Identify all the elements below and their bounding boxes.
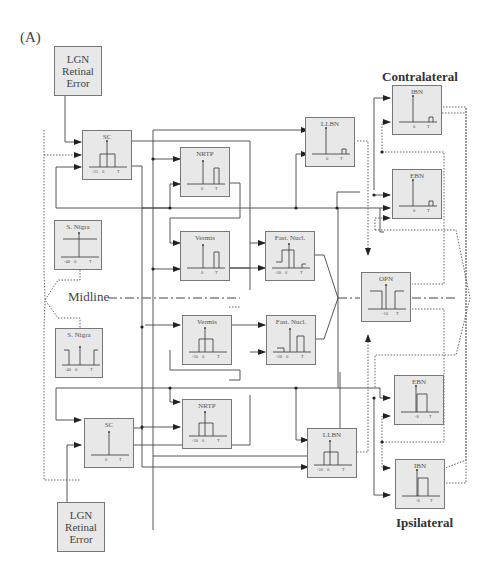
node-snigra-top: S. Nigra-400T (54, 220, 102, 270)
tick-label: T (215, 186, 218, 191)
tick-label: T (396, 311, 399, 316)
tick-label: T (427, 208, 430, 213)
node-title: LLBN (306, 120, 354, 128)
panel-label: (A) (20, 29, 41, 46)
node-snigra-bot: S. Nigra-400T (55, 328, 103, 378)
tick-label: 0 (413, 208, 415, 213)
node-vermis-bot: Vermis-200T (182, 315, 232, 365)
node-title: IBN (393, 88, 441, 96)
tick-label: -10 (382, 311, 388, 316)
contralateral-label: Contralateral (382, 69, 458, 85)
node-ibn-bot: IBN-8T (395, 459, 445, 509)
node-title: LLBN (308, 431, 356, 439)
node-ibn-top: IBN0T (392, 85, 442, 135)
tick-label: T (217, 438, 220, 443)
midline-label: Midline (68, 289, 109, 305)
tick-label: 0 (285, 270, 287, 275)
tick-label: T (429, 414, 432, 419)
tick-label: -40 (65, 367, 71, 372)
tick-label: -20 (276, 354, 282, 359)
node-lgn-top: LGNRetinalError (54, 46, 102, 96)
tick-label: -20 (192, 354, 198, 359)
node-sc-bot: SC0T (84, 418, 134, 468)
tick-label: T (300, 270, 303, 275)
tick-label: T (90, 367, 93, 372)
node-sc-top: SC-250T (82, 130, 132, 180)
tick-label: 0 (202, 354, 204, 359)
node-title: NRTP (183, 402, 231, 410)
node-lgn-bot: LGNRetinalError (57, 502, 105, 552)
tick-label: -8 (415, 414, 419, 419)
node-title: S. Nigra (55, 223, 101, 231)
node-fastn-top: Fast. Nucl.-200T (265, 231, 315, 281)
node-fastn-bot: Fast. Nucl.-200T (266, 315, 316, 365)
tick-label: T (217, 354, 220, 359)
tick-label: -40 (64, 259, 70, 264)
node-title: SC (83, 133, 131, 141)
node-title: NRTP (181, 150, 229, 158)
tick-label: 0 (286, 354, 288, 359)
ipsilateral-label: Ipsilateral (396, 515, 453, 531)
node-title: SC (85, 421, 133, 429)
tick-label: 0 (105, 457, 107, 462)
node-title: EBN (395, 378, 443, 386)
diagram-stage: (A) Contralateral Ipsilateral Midline LG… (0, 0, 491, 571)
node-nrtp-bot: NRTP-200T (182, 399, 232, 449)
node-title: Fast. Nucl. (266, 234, 314, 242)
node-ebn-bot: EBN-8T (394, 375, 444, 425)
node-title: Vermis (183, 318, 231, 326)
node-vermis-top: Vermis0T (180, 231, 230, 281)
tick-label: 0 (326, 156, 328, 161)
node-llbn-bot: LLBN-200T (307, 428, 357, 478)
node-llbn-top: LLBN0T (305, 117, 355, 167)
tick-label: 0 (201, 186, 203, 191)
tick-label: 0 (327, 467, 329, 472)
node-title: S. Nigra (56, 331, 102, 339)
tick-label: 0 (75, 367, 77, 372)
node-title: Fast. Nucl. (267, 318, 315, 326)
tick-label: 0 (413, 124, 415, 129)
node-title: OPN (362, 275, 410, 283)
tick-label: T (342, 467, 345, 472)
tick-label: T (215, 270, 218, 275)
node-opn: OPN-10T (361, 272, 411, 322)
tick-label: 0 (102, 169, 104, 174)
tick-label: -8 (416, 498, 420, 503)
tick-label: T (301, 354, 304, 359)
node-ebn-top: EBN0T (392, 169, 442, 219)
tick-label: T (117, 169, 120, 174)
tick-label: T (89, 259, 92, 264)
tick-label: T (340, 156, 343, 161)
tick-label: 0 (74, 259, 76, 264)
tick-label: 0 (202, 438, 204, 443)
node-title: LGNRetinalError (58, 509, 104, 545)
tick-label: -20 (192, 438, 198, 443)
tick-label: -20 (317, 467, 323, 472)
node-title: Vermis (181, 234, 229, 242)
tick-label: T (430, 498, 433, 503)
tick-label: 0 (201, 270, 203, 275)
tick-label: -25 (92, 169, 98, 174)
node-nrtp-top: NRTP0T (180, 147, 230, 197)
node-title: IBN (396, 462, 444, 470)
tick-label: T (427, 124, 430, 129)
tick-label: -20 (275, 270, 281, 275)
node-title: LGNRetinalError (55, 53, 101, 89)
tick-label: T (119, 457, 122, 462)
node-title: EBN (393, 172, 441, 180)
